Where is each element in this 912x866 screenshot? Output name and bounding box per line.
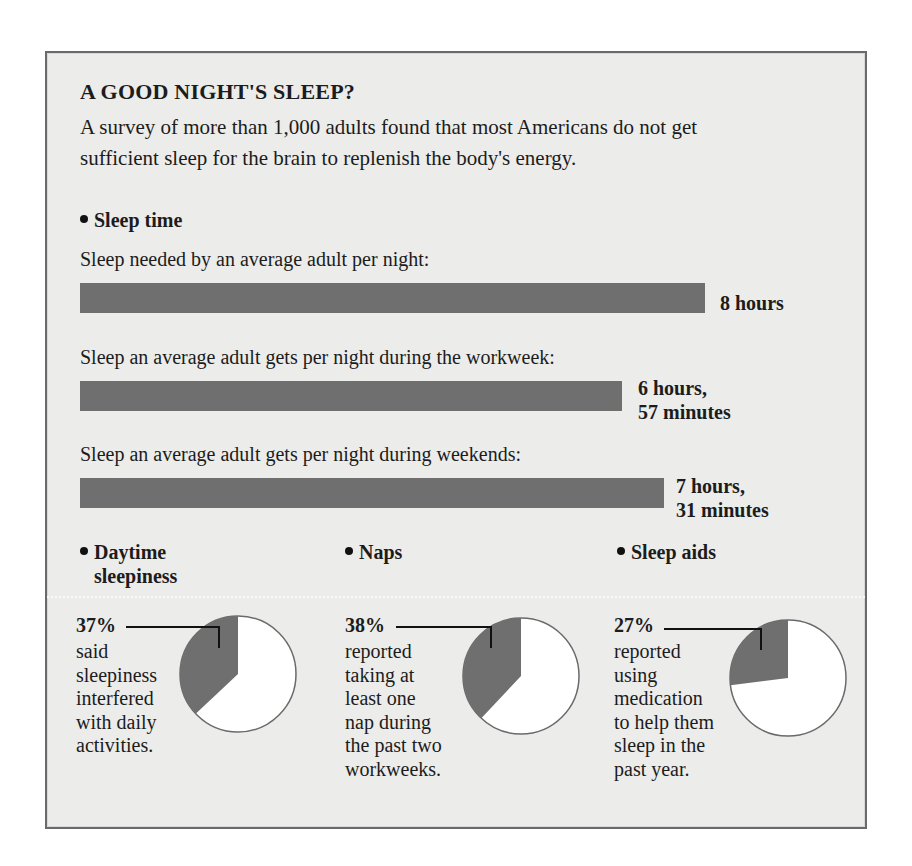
desc-line: past year. bbox=[614, 758, 744, 782]
desc-line: activities. bbox=[76, 734, 186, 758]
dotted-divider bbox=[47, 596, 865, 598]
section-heading-line2: sleepiness bbox=[80, 564, 177, 588]
desc-line: interfered bbox=[76, 687, 186, 711]
section-heading: Daytime bbox=[94, 541, 166, 563]
bar-value-workweek-line1: 6 hours, bbox=[638, 376, 731, 400]
section-naps: Naps bbox=[345, 540, 402, 564]
section-heading: Sleep time bbox=[94, 209, 182, 231]
bar-value-workweek: 6 hours, 57 minutes bbox=[638, 376, 731, 424]
bar-weekend bbox=[80, 478, 664, 508]
section-heading: Sleep aids bbox=[631, 541, 716, 563]
bar-label-weekend: Sleep an average adult gets per night du… bbox=[80, 443, 521, 466]
desc-line: nap during bbox=[345, 711, 475, 735]
bar-workweek bbox=[80, 381, 622, 411]
section-sleep-time: Sleep time bbox=[80, 208, 182, 232]
leader-line-sleepiness bbox=[126, 626, 220, 648]
desc-line: using bbox=[614, 664, 744, 688]
bar-value-weekend-line1: 7 hours, bbox=[676, 474, 769, 498]
infographic-title: A GOOD NIGHT'S SLEEP? bbox=[80, 79, 355, 105]
desc-line: with daily bbox=[76, 711, 186, 735]
bar-value-workweek-line2: 57 minutes bbox=[638, 400, 731, 424]
pie-percent-sleepiness: 37% bbox=[76, 614, 116, 637]
desc-line: workweeks. bbox=[345, 758, 475, 782]
section-daytime-sleepiness: Daytime sleepiness bbox=[80, 540, 177, 588]
bar-label-workweek: Sleep an average adult gets per night du… bbox=[80, 346, 555, 369]
bullet-icon bbox=[617, 547, 625, 555]
section-heading: Naps bbox=[359, 541, 402, 563]
desc-line: taking at bbox=[345, 664, 475, 688]
desc-line: to help them bbox=[614, 711, 744, 735]
desc-line: sleepiness bbox=[76, 664, 186, 688]
bar-value-weekend: 7 hours, 31 minutes bbox=[676, 474, 769, 522]
desc-line: the past two bbox=[345, 734, 475, 758]
desc-line: sleep in the bbox=[614, 734, 744, 758]
bar-value-weekend-line2: 31 minutes bbox=[676, 498, 769, 522]
pie-percent-sleep-aids: 27% bbox=[614, 614, 654, 637]
pie-desc-naps: reported taking at least one nap during … bbox=[345, 640, 475, 781]
bullet-icon bbox=[345, 547, 353, 555]
leader-line-sleep-aids bbox=[664, 628, 762, 650]
section-sleep-aids: Sleep aids bbox=[617, 540, 716, 564]
intro-line-2: sufficient sleep for the brain to replen… bbox=[80, 143, 576, 174]
bullet-icon bbox=[80, 215, 88, 223]
bar-needed bbox=[80, 283, 705, 313]
pie-desc-sleep-aids: reported using medication to help them s… bbox=[614, 640, 744, 781]
bullet-icon bbox=[80, 547, 88, 555]
bar-label-needed: Sleep needed by an average adult per nig… bbox=[80, 248, 429, 271]
intro-line-1: A survey of more than 1,000 adults found… bbox=[80, 112, 697, 143]
pie-percent-naps: 38% bbox=[345, 614, 385, 637]
bar-value-needed: 8 hours bbox=[720, 291, 784, 315]
leader-line-naps bbox=[396, 626, 492, 648]
pie-desc-sleepiness: said sleepiness interfered with daily ac… bbox=[76, 640, 186, 758]
desc-line: least one bbox=[345, 687, 475, 711]
desc-line: medication bbox=[614, 687, 744, 711]
